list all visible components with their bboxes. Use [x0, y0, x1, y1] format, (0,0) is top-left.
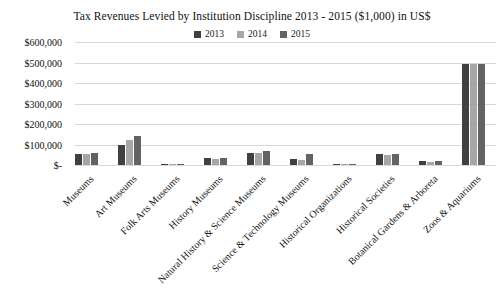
y-axis-tick-label: $-: [0, 161, 62, 171]
plot-area: $-$100,000$200,000$300,000$400,000$500,0…: [75, 42, 496, 165]
legend-swatch-icon: [280, 31, 287, 38]
bar-2014-science-technology-museums: [298, 160, 305, 165]
bar-2014-historical-societies: [384, 155, 391, 165]
bar-2013-science-technology-museums: [290, 159, 297, 165]
legend-item-2014: 2014: [237, 29, 267, 39]
bar-2013-art-museums: [118, 145, 125, 166]
gridline: [75, 83, 496, 84]
y-axis-tick-label: $400,000: [0, 79, 62, 89]
gridline: [75, 42, 496, 43]
bar-2014-historical-organizations: [341, 164, 348, 165]
chart-canvas: Tax Revenues Levied by Institution Disci…: [0, 0, 504, 308]
bar-2014-art-museums: [126, 140, 133, 165]
y-axis-tick-label: $500,000: [0, 59, 62, 69]
bar-2015-art-museums: [134, 136, 141, 165]
bar-2013-historical-societies: [376, 154, 383, 165]
bar-2013-historical-organizations: [333, 164, 340, 165]
gridline: [75, 104, 496, 105]
bar-2014-natural-history-science-museums: [255, 153, 262, 165]
y-axis-tick-label: $200,000: [0, 120, 62, 130]
bar-2014-history-museums: [212, 159, 219, 165]
bar-2015-natural-history-science-museums: [263, 151, 270, 165]
legend-label: 2015: [291, 29, 310, 39]
bar-2013-zoos-aquariums: [462, 64, 469, 165]
bar-2015-botanical-gardens-arboreta: [435, 161, 442, 165]
bar-2015-museums: [91, 153, 98, 165]
legend-item-2013: 2013: [194, 29, 224, 39]
gridline: [75, 124, 496, 125]
bar-2013-history-museums: [204, 158, 211, 165]
bar-2013-folk-arts-museums: [161, 164, 168, 165]
legend-swatch-icon: [237, 31, 244, 38]
bar-2015-folk-arts-museums: [177, 164, 184, 165]
legend-swatch-icon: [194, 31, 201, 38]
legend-label: 2014: [248, 29, 267, 39]
bar-2013-natural-history-science-museums: [247, 153, 254, 165]
legend-label: 2013: [205, 29, 224, 39]
legend: 201320142015: [0, 29, 504, 39]
y-axis-tick-label: $100,000: [0, 141, 62, 151]
legend-item-2015: 2015: [280, 29, 310, 39]
bar-2014-zoos-aquariums: [470, 64, 477, 165]
gridline: [75, 165, 496, 166]
chart-title: Tax Revenues Levied by Institution Disci…: [0, 10, 504, 22]
bar-2014-botanical-gardens-arboreta: [427, 162, 434, 165]
bar-2015-historical-organizations: [349, 164, 356, 165]
gridline: [75, 63, 496, 64]
y-axis-tick-label: $600,000: [0, 38, 62, 48]
bar-2013-museums: [75, 154, 82, 165]
y-axis-tick-label: $300,000: [0, 100, 62, 110]
bar-2015-science-technology-museums: [306, 154, 313, 165]
bar-2015-zoos-aquariums: [478, 64, 485, 165]
bar-2015-historical-societies: [392, 154, 399, 165]
bar-2015-history-museums: [220, 158, 227, 165]
bar-2014-folk-arts-museums: [169, 164, 176, 165]
bar-2014-museums: [83, 154, 90, 165]
bar-2013-botanical-gardens-arboreta: [419, 161, 426, 165]
